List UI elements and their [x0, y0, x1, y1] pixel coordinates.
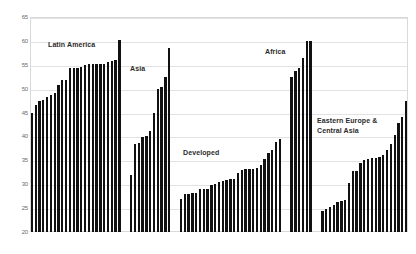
bar: [184, 194, 186, 232]
group-label-africa: Africa: [265, 47, 285, 57]
bar: [390, 144, 392, 232]
bar: [359, 163, 361, 232]
bar: [248, 169, 250, 232]
bar: [244, 169, 246, 232]
y-tick-label: 25: [2, 205, 28, 211]
bar: [95, 64, 97, 232]
bar: [50, 95, 52, 232]
bar: [218, 182, 220, 232]
bar: [321, 211, 323, 232]
bar: [130, 175, 132, 232]
y-tick-label: 50: [2, 86, 28, 92]
bar: [229, 179, 231, 232]
bar: [141, 137, 143, 232]
bar: [107, 62, 109, 232]
bar: [61, 80, 63, 232]
bar: [73, 68, 75, 232]
bar: [160, 87, 162, 232]
bar: [348, 183, 350, 232]
y-tick-label: 35: [2, 157, 28, 163]
bar: [134, 144, 136, 232]
y-tick-label: 55: [2, 62, 28, 68]
group-label-developed: Developed: [183, 148, 219, 158]
bar: [92, 64, 94, 232]
bar: [199, 189, 201, 232]
bar: [99, 64, 101, 232]
bar: [168, 48, 170, 232]
bar: [290, 77, 292, 232]
bar: [103, 64, 105, 232]
bar: [233, 179, 235, 233]
bar: [275, 142, 277, 232]
bar: [401, 117, 403, 232]
bar: [378, 157, 380, 232]
bar: [256, 168, 258, 233]
bar: [80, 67, 82, 232]
y-tick-label: 30: [2, 181, 28, 187]
bar: [367, 159, 369, 232]
bar: [325, 209, 327, 232]
bar: [252, 169, 254, 232]
bar-chart: 20253035404550556065 Latin AmericaAsiaDe…: [0, 0, 416, 254]
bar: [260, 165, 262, 232]
bar: [191, 193, 193, 232]
bar: [336, 202, 338, 232]
bar: [65, 80, 67, 232]
y-tick-label: 20: [2, 229, 28, 235]
bar: [69, 68, 71, 232]
bar: [267, 153, 269, 232]
bar: [138, 143, 140, 232]
y-tick-label: 45: [2, 110, 28, 116]
bar: [76, 68, 78, 232]
bar: [302, 58, 304, 232]
y-tick-label: 40: [2, 133, 28, 139]
bar: [180, 199, 182, 232]
bar: [84, 65, 86, 232]
bar: [298, 68, 300, 232]
group-label-latin-america: Latin America: [48, 40, 95, 50]
bar: [157, 89, 159, 232]
bar: [333, 205, 335, 232]
bar: [375, 158, 377, 232]
bar: [397, 123, 399, 232]
bar: [355, 171, 357, 232]
bar: [206, 189, 208, 232]
group-label-asia: Asia: [130, 64, 145, 74]
bar: [306, 41, 308, 232]
y-tick-label: 65: [2, 14, 28, 20]
bar: [149, 131, 151, 232]
bar: [31, 113, 33, 232]
bar: [210, 185, 212, 232]
bar: [38, 101, 40, 232]
bar: [329, 207, 331, 232]
bar: [114, 60, 116, 232]
bar: [294, 71, 296, 232]
bar: [363, 160, 365, 232]
bar: [309, 41, 311, 232]
bar: [225, 180, 227, 232]
bar: [57, 85, 59, 232]
bar: [271, 150, 273, 232]
bar: [340, 201, 342, 232]
bar: [42, 100, 44, 232]
group-label-eastern-europe-central-asia: Eastern Europe & Central Asia: [317, 116, 377, 135]
bar: [241, 170, 243, 232]
bar: [35, 105, 37, 232]
bar: [54, 93, 56, 233]
bar: [46, 97, 48, 232]
bar: [203, 189, 205, 232]
bar: [187, 194, 189, 232]
bar: [394, 135, 396, 232]
y-axis: 20253035404550556065: [0, 17, 28, 232]
bar: [279, 139, 281, 232]
bar: [386, 150, 388, 232]
bar: [118, 40, 120, 232]
bar: [263, 159, 265, 232]
bar: [153, 113, 155, 232]
bar: [344, 200, 346, 232]
bar: [88, 64, 90, 232]
bar: [214, 184, 216, 232]
bar: [382, 155, 384, 232]
bar: [222, 181, 224, 232]
bar: [145, 136, 147, 232]
